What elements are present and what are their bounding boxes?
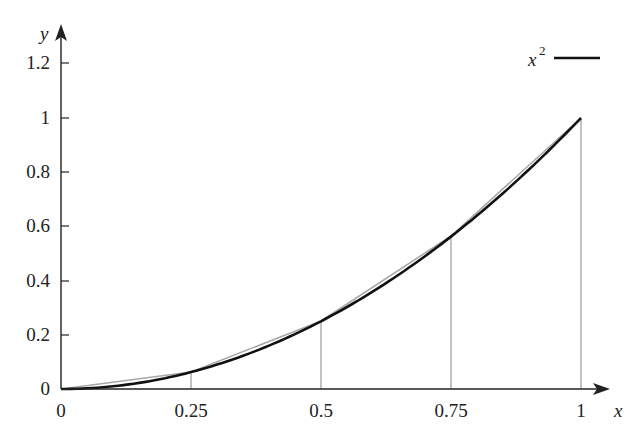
y-tick-label: 0.8 [26,161,50,182]
x-axis-label: x [613,400,623,421]
x-tick-label: 0 [56,400,66,421]
chart: 0 0.2 0.4 0.6 0.8 1 1.2 0 0.25 0.5 0.75 … [0,0,633,432]
x-tick-label: 0.75 [434,400,467,421]
x-tick-label: 1 [576,400,586,421]
y-tick-label: 0.4 [26,270,50,291]
y-tick-label: 0.6 [26,215,50,236]
y-tick-label: 1.2 [26,52,50,73]
y-axis-label: y [38,23,49,44]
y-tick-label: 1 [41,107,51,128]
y-tick-label: 0 [41,378,51,399]
legend-label-exponent: 2 [539,43,546,58]
x-tick-label: 0.5 [309,400,333,421]
y-ticks [61,63,69,335]
x-tick-label: 0.25 [174,400,207,421]
legend: x 2 [527,43,600,70]
y-tick-label: 0.2 [26,324,50,345]
legend-label-base: x [527,49,537,70]
